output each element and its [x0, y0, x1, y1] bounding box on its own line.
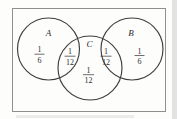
fraction-denominator: 12: [102, 58, 110, 67]
fraction-numerator: 1: [87, 66, 91, 75]
set-label-A: A: [45, 28, 52, 38]
fraction-denominator: 6: [38, 56, 42, 65]
fraction-numerator: 1: [104, 47, 108, 56]
set-label-C: C: [86, 39, 93, 49]
fraction-denominator: 12: [85, 76, 93, 85]
venn-diagram-svg: A B C 1 6 1 12 1 12 1 6 1: [0, 0, 177, 119]
set-label-B: B: [128, 28, 134, 38]
fraction-denominator: 12: [66, 58, 74, 67]
fraction-numerator: 1: [138, 47, 142, 56]
paper-background: [0, 0, 177, 119]
fraction-denominator: 6: [138, 57, 142, 66]
venn-figure: A B C 1 6 1 12 1 12 1 6 1: [0, 0, 177, 119]
fraction-numerator: 1: [38, 45, 42, 54]
fraction-numerator: 1: [68, 47, 72, 56]
